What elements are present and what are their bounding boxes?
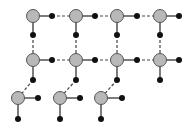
black-node	[92, 57, 98, 63]
black-node	[49, 57, 55, 63]
black-node	[157, 32, 163, 38]
black-node	[30, 32, 36, 38]
black-node	[114, 77, 120, 83]
grey-node	[54, 92, 67, 105]
black-node	[35, 95, 41, 101]
black-nodes	[15, 13, 182, 122]
grey-node	[154, 10, 167, 23]
grey-node	[27, 10, 40, 23]
black-node	[30, 77, 36, 83]
grey-node	[111, 10, 124, 23]
grey-nodes	[12, 10, 167, 105]
black-node	[73, 77, 79, 83]
black-node	[77, 95, 83, 101]
grey-node	[154, 54, 167, 67]
black-node	[176, 57, 182, 63]
black-node	[73, 32, 79, 38]
black-node	[157, 77, 163, 83]
grey-node	[95, 92, 108, 105]
black-node	[15, 116, 21, 122]
black-node	[134, 13, 140, 19]
lattice-diagram	[0, 0, 188, 129]
black-node	[119, 95, 125, 101]
grey-node	[111, 54, 124, 67]
grey-node	[27, 54, 40, 67]
black-node	[92, 13, 98, 19]
grey-node	[70, 10, 83, 23]
black-node	[49, 13, 55, 19]
black-node	[98, 116, 104, 122]
black-node	[176, 13, 182, 19]
grey-node	[12, 92, 25, 105]
black-node	[114, 32, 120, 38]
grey-node	[70, 54, 83, 67]
black-node	[57, 116, 63, 122]
graph-canvas	[0, 0, 188, 129]
black-node	[134, 57, 140, 63]
